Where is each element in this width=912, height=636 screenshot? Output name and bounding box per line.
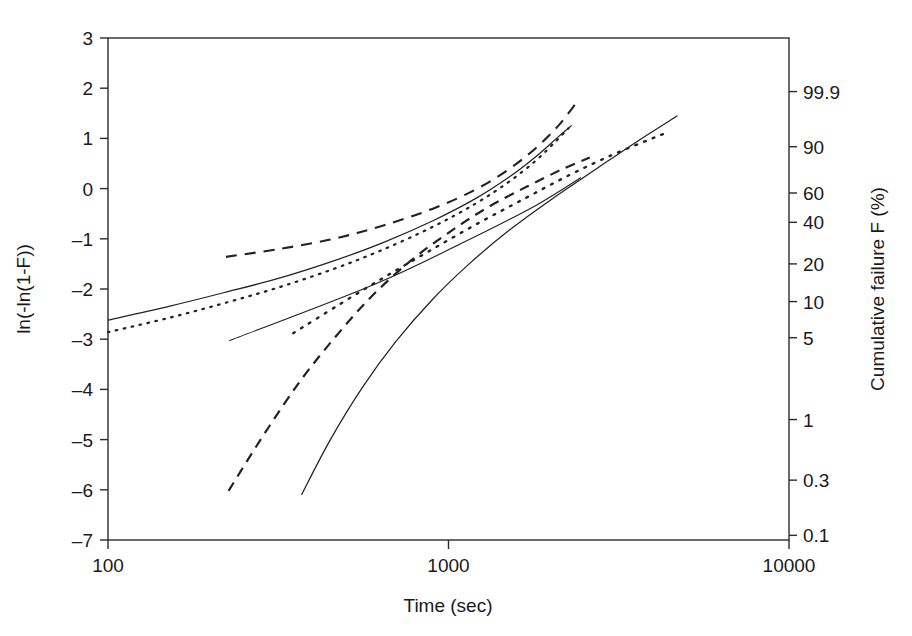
y2-tick-label: 90 xyxy=(803,137,824,158)
series-left-group-dashed-curve xyxy=(226,102,577,257)
y-tick-label: 3 xyxy=(82,28,93,49)
weibull-probability-plot-figure: 3210–1–2–3–4–5–6–7 99.99060402010510.30.… xyxy=(0,0,912,636)
series-left-group-dotted-curve xyxy=(108,128,568,332)
y-tick-label: –6 xyxy=(72,480,93,501)
data-series-group xyxy=(108,102,677,495)
chart-canvas: 3210–1–2–3–4–5–6–7 99.99060402010510.30.… xyxy=(0,0,912,636)
plot-frame xyxy=(108,38,789,540)
x-tick-label: 100 xyxy=(92,555,124,576)
x-axis-title: Time (sec) xyxy=(403,595,492,616)
series-right-group-thin-straight-line xyxy=(229,178,581,341)
y-axis-right-title: Cumulative failure F (%) xyxy=(867,187,888,391)
y2-tick-label: 5 xyxy=(803,328,814,349)
x-tick-label: 1000 xyxy=(427,555,469,576)
y-tick-label: 0 xyxy=(82,179,93,200)
y-axis-right-ticks xyxy=(789,92,797,536)
series-right-group-dotted-curve xyxy=(293,132,667,333)
y-tick-label: 1 xyxy=(82,128,93,149)
y-tick-label: –4 xyxy=(72,379,94,400)
y-tick-label: –2 xyxy=(72,279,93,300)
y2-tick-label: 1 xyxy=(803,410,814,431)
x-tick-label: 10000 xyxy=(763,555,816,576)
y-tick-label: –3 xyxy=(72,329,93,350)
series-right-group-solid-curve xyxy=(301,116,677,495)
x-axis-tick-labels: 100100010000 xyxy=(92,555,815,576)
y-axis-left-ticks xyxy=(100,38,108,540)
y2-tick-label: 99.9 xyxy=(803,82,840,103)
series-right-group-dashed-curve xyxy=(229,157,590,490)
y-axis-right-tick-labels: 99.99060402010510.30.1 xyxy=(803,82,840,547)
y2-tick-label: 60 xyxy=(803,183,824,204)
y-tick-label: –5 xyxy=(72,430,93,451)
x-axis-ticks xyxy=(108,540,789,549)
y2-tick-label: 40 xyxy=(803,212,824,233)
y-tick-label: –7 xyxy=(72,530,93,551)
y2-tick-label: 0.3 xyxy=(803,470,829,491)
y2-tick-label: 0.1 xyxy=(803,525,829,546)
y-axis-left-tick-labels: 3210–1–2–3–4–5–6–7 xyxy=(72,28,94,551)
y-tick-label: –1 xyxy=(72,229,93,250)
y2-tick-label: 10 xyxy=(803,292,824,313)
y2-tick-label: 20 xyxy=(803,254,824,275)
y-tick-label: 2 xyxy=(82,78,93,99)
y-axis-title: ln(-ln(1-F)) xyxy=(13,244,34,334)
